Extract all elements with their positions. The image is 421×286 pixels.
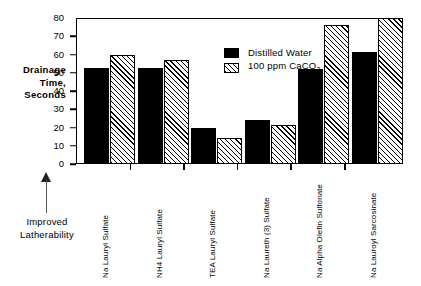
legend-item-caco3: 100 ppm CaCO3	[224, 61, 321, 74]
legend: Distilled Water 100 ppm CaCO3	[224, 46, 321, 76]
arrow-shaft	[46, 180, 47, 213]
legend-label: 100 ppm CaCO3	[248, 61, 321, 75]
annotation-text: Improved Latherability	[0, 216, 94, 241]
x-tick-label: Na Alpha Olefin Sulfonate	[316, 184, 324, 278]
x-tick-label: Na Laureth (3) Sulfate	[263, 197, 271, 278]
x-axis-labels: Na Lauryl Sulfate NH4 Lauryl Sulfate TEA…	[0, 0, 421, 286]
legend-label: Distilled Water	[248, 48, 312, 58]
legend-label-subscript: 3	[316, 65, 320, 72]
legend-label-text: 100 ppm CaCO	[248, 60, 316, 71]
legend-swatch-hatch-icon	[224, 63, 239, 73]
x-tick-label: TEA Lauryl Sulfate	[209, 210, 217, 278]
x-tick-label: Na Lauryl Sulfate	[102, 215, 110, 278]
drainage-time-bar-chart: 80 70 60 50 40 30 20 10 0 Drainage Time,…	[0, 0, 421, 286]
annotation-line-1: Improved	[0, 216, 94, 229]
legend-item-distilled-water: Distilled Water	[224, 46, 321, 59]
x-tick-label: NH4 Lauryl Sulfate	[156, 209, 164, 278]
x-tick-label: Na Lauroyl Sarcosinate	[370, 193, 378, 278]
legend-swatch-solid-icon	[224, 48, 239, 58]
annotation-line-2: Latherability	[0, 229, 94, 242]
